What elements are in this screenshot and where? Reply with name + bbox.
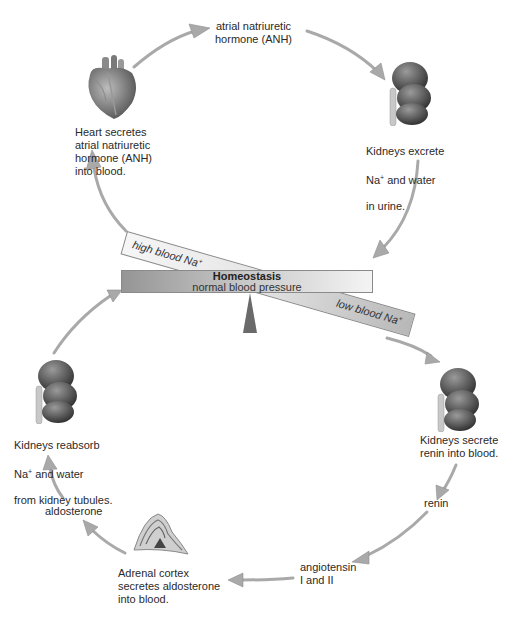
- heart-icon: [82, 55, 140, 120]
- kidney-reabsorb-line1: Kidneys reabsorb: [14, 439, 100, 451]
- kidneys-secrete-renin-label: Kidneys secrete renin into blood.: [420, 434, 498, 460]
- kidney-reabsorb-na: Na: [14, 468, 28, 480]
- angiotensin-label: angiotensin I and II: [300, 561, 356, 587]
- kidney-icon: [30, 356, 80, 424]
- anh-hormone-label: atrial natriuretic hormone (ANH): [215, 20, 292, 46]
- kidney-reabsorb-line3: from kidney tubules.: [14, 494, 112, 506]
- heart-secretes-label: Heart secretes atrial natriuretic hormon…: [75, 126, 152, 178]
- kidney-excrete-line1: Kidneys excrete: [366, 145, 444, 157]
- kidney-reabsorb-water: and water: [32, 468, 83, 480]
- homeostasis-bar: Homeostasis normal blood pressure: [121, 270, 373, 293]
- kidney-excrete-water: and water: [384, 174, 435, 186]
- adrenal-gland-icon: [132, 512, 190, 556]
- kidney-excrete-na: Na: [366, 174, 380, 186]
- renin-label: renin: [424, 497, 448, 510]
- fulcrum-icon: [243, 293, 257, 333]
- kidneys-excrete-label: Kidneys excrete Na+ and water in urine.: [366, 132, 444, 213]
- kidneys-reabsorb-label: Kidneys reabsorb Na+ and water from kidn…: [14, 426, 112, 507]
- kidney-icon: [384, 58, 434, 126]
- kidney-icon: [432, 364, 482, 432]
- adrenal-cortex-label: Adrenal cortex secretes aldosterone into…: [118, 567, 220, 606]
- superscript-plus: +: [398, 314, 404, 322]
- superscript-plus: +: [198, 257, 204, 265]
- homeostasis-subtitle: normal blood pressure: [122, 282, 372, 293]
- kidney-excrete-line3: in urine.: [366, 200, 405, 212]
- cycle-arrows: [0, 0, 517, 628]
